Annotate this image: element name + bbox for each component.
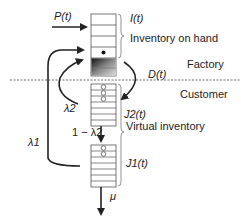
queue1-customer-circle (101, 146, 106, 151)
factory-label: Factory (187, 58, 224, 70)
virtual-inventory-label: Virtual inventory (126, 120, 205, 132)
queue2-customer-circle (101, 97, 106, 102)
inventory-item-dot (102, 51, 106, 55)
service-rate-label: μ (109, 190, 116, 202)
demand-label: D(t) (148, 68, 167, 80)
customer-label: Customer (180, 88, 228, 100)
demand-arrow (122, 62, 136, 99)
inventory-bracket (118, 14, 124, 58)
inventory-diagram: P(t) I(t) Inventory on hand Factory D(t)… (0, 0, 241, 221)
lambda1-label: λ1 (27, 136, 40, 148)
one-minus-lambda2-label: 1 − λ2 (72, 126, 102, 138)
queue2-stack (91, 84, 116, 126)
production-rate-label: P(t) (54, 10, 72, 22)
inventory-stack (91, 14, 116, 76)
queue1-label: J1(t) (125, 157, 148, 169)
queue1-customer-circle (101, 152, 106, 157)
inventory-on-hand-label: Inventory on hand (130, 32, 218, 44)
production-gradient-cell (91, 58, 115, 75)
queue2-customer-circle (101, 85, 106, 90)
lambda2-label: λ2 (63, 102, 76, 114)
queue1-stack (91, 145, 116, 187)
virtual-inventory-bracket (118, 84, 124, 186)
queue2-customer-circle (101, 91, 106, 96)
lambda2-loop-arrow (59, 60, 82, 104)
queue2-label: J2(t) (123, 108, 146, 120)
inventory-level-label: I(t) (130, 12, 144, 24)
